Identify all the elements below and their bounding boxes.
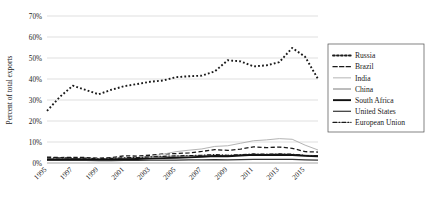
x-tick-label: 2011 [239, 165, 255, 181]
y-tick-label: 50% [29, 55, 42, 63]
legend-label-china: China [355, 85, 374, 94]
x-tick-label: 2013 [265, 165, 281, 181]
x-tick-label: 2003 [136, 165, 152, 181]
legend-label-india: India [355, 74, 371, 83]
y-tick-label: 20% [29, 118, 42, 126]
chart-legend: RussiaBrazilIndiaChinaSouth AfricaUnited… [328, 44, 424, 132]
x-tick-label: 2001 [110, 165, 126, 181]
legend-label-russia: Russia [355, 51, 376, 60]
y-tick-label: 30% [29, 97, 42, 105]
chart-canvas: 0%10%20%30%40%50%60%70% 1995199719992001… [0, 0, 432, 201]
x-axis-tick-labels: 1995199719992001200320052007200920112013… [33, 165, 307, 181]
series-lines [47, 48, 318, 161]
y-tick-label: 40% [29, 76, 42, 84]
legend-label-european-union: European Union [355, 118, 405, 127]
y-tick-label: 0% [32, 160, 42, 168]
x-tick-label: 2009 [213, 165, 229, 181]
x-tick-label: 2005 [162, 165, 178, 181]
x-tick-label: 1995 [33, 165, 49, 181]
series-line-russia [47, 48, 318, 111]
y-axis-tick-labels: 0%10%20%30%40%50%60%70% [29, 13, 42, 168]
y-tick-label: 70% [29, 13, 42, 21]
gridlines [47, 16, 318, 163]
x-tick-label: 2015 [291, 165, 307, 181]
line-chart: 0%10%20%30%40%50%60%70% 1995199719992001… [0, 0, 432, 201]
y-tick-label: 60% [29, 34, 42, 42]
y-axis-title: Percent of total exports [5, 56, 14, 125]
legend-label-south-africa: South Africa [355, 96, 394, 105]
legend-label-united-states: United States [355, 107, 396, 116]
x-tick-label: 2007 [187, 165, 203, 181]
legend-label-brazil: Brazil [355, 62, 374, 71]
x-tick-label: 1997 [58, 165, 74, 181]
series-line-brazil [47, 147, 318, 158]
y-tick-label: 10% [29, 139, 42, 147]
x-tick-label: 1999 [84, 165, 100, 181]
